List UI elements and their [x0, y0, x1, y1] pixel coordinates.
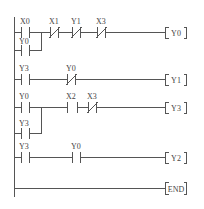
contact-y0-no: Y0 [19, 92, 30, 113]
rung-1: X0 Y0 X1 Y1 [15, 17, 187, 56]
rung-end: END [15, 183, 187, 195]
contact-label: Y3 [19, 64, 29, 73]
contact-x3-nc: X3 [96, 17, 107, 38]
contact-x2-no: X2 [66, 92, 78, 113]
parallel-contact-y3-no: Y3 [15, 108, 42, 140]
coil-label: Y1 [171, 76, 181, 85]
contact-x0-no: X0 [20, 17, 30, 38]
contact-x3-nc: X3 [87, 92, 98, 113]
coil-y3: Y3 [166, 103, 187, 114]
contact-y3-no: Y3 [19, 64, 30, 85]
contact-y0-nc: Y0 [66, 64, 77, 85]
parallel-contact-y0-no: Y0 [15, 33, 42, 57]
coil-y1: Y1 [166, 75, 187, 86]
contact-label: X3 [96, 17, 106, 26]
contact-label: Y0 [19, 92, 29, 101]
ladder-diagram: X0 Y0 X1 Y1 [0, 0, 204, 209]
contact-label: Y0 [66, 64, 76, 73]
contact-y1-nc: Y1 [71, 17, 82, 38]
contact-label: Y3 [19, 119, 29, 128]
contact-label: Y1 [71, 17, 81, 26]
coil-label: Y2 [171, 154, 181, 163]
rung-3: Y0 Y3 X2 X3 Y3 [15, 92, 187, 139]
coil-label: Y0 [171, 29, 181, 38]
rung-4: Y3 Y0 Y2 [15, 142, 187, 164]
contact-label: X1 [49, 17, 59, 26]
contact-x1-nc: X1 [49, 17, 60, 38]
coil-y0: Y0 [166, 28, 187, 39]
contact-label: Y3 [19, 142, 29, 151]
contact-label: X0 [20, 17, 30, 26]
end-instruction: END [166, 183, 187, 195]
end-label: END [168, 185, 185, 194]
coil-label: Y3 [171, 104, 181, 113]
rung-2: Y3 Y0 Y1 [15, 64, 187, 86]
contact-label: X2 [66, 92, 76, 101]
contact-label: Y0 [71, 142, 81, 151]
contact-label: Y0 [19, 37, 29, 46]
contact-y0-no: Y0 [71, 142, 81, 163]
coil-y2: Y2 [166, 153, 187, 164]
contact-label: X3 [87, 92, 97, 101]
contact-y3-no: Y3 [19, 142, 30, 163]
